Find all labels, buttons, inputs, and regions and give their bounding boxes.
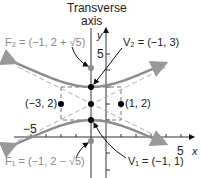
x-tick-neg5: −5	[23, 123, 37, 135]
vertex-v2-label: V₂ = (−1, 3)	[123, 37, 179, 48]
point-right-label: (1, 2)	[125, 98, 151, 109]
transverse-axis-label-line2: axis	[81, 15, 102, 27]
transverse-axis-label-line1: Transverse	[67, 2, 127, 14]
vertex-v1-point	[88, 117, 94, 123]
point-right	[118, 101, 124, 107]
hyperbola-diagram: Transverse axis y x 5 −5 5 F₂ = (−1, 2 +…	[0, 0, 202, 178]
x-axis-label: x	[192, 146, 198, 157]
vertex-v1-label: V₁ = (−1, 1)	[128, 156, 184, 167]
vertex-v2-point	[88, 84, 94, 90]
focus-f2-point	[88, 65, 94, 71]
focus-f2-label: F₂ = (−1, 2 + √5)	[5, 37, 85, 48]
point-left-label: (−3, 2)	[25, 98, 57, 109]
center-point	[88, 101, 94, 107]
focus-f1-label: F₁ = (−1, 2 − √5)	[5, 156, 85, 167]
f2-leader-arrow	[72, 47, 88, 66]
focus-f1-point	[88, 138, 94, 144]
y-tick-5: 5	[97, 48, 104, 60]
point-left	[58, 101, 64, 107]
y-axis-label: y	[97, 30, 103, 41]
